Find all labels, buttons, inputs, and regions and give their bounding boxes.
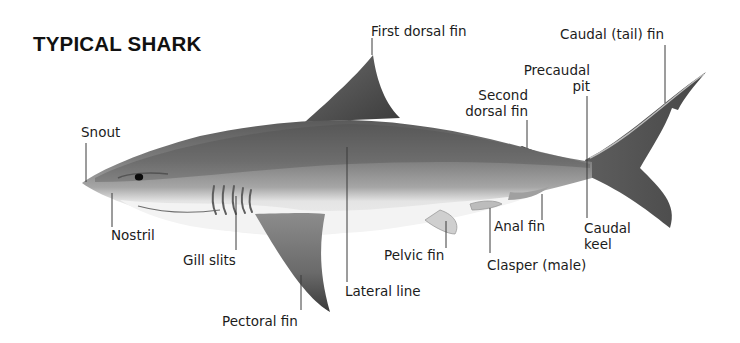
- pectoral-fin-shape: [255, 213, 330, 312]
- label-pelvic-fin: Pelvic fin: [384, 247, 444, 263]
- label-gill-slits: Gill slits: [183, 252, 236, 268]
- label-snout: Snout: [81, 124, 120, 140]
- caudal-fin-shape: [585, 72, 706, 228]
- label-anal-fin: Anal fin: [494, 218, 545, 234]
- label-precaudal-pit: Precaudal pit: [518, 62, 590, 94]
- first-dorsal-fin-shape: [305, 55, 400, 122]
- label-clasper: Clasper (male): [487, 257, 586, 273]
- shark-anatomy-diagram: TYPICAL SHARK First dorsal fin Caudal (t…: [0, 0, 740, 343]
- label-nostril: Nostril: [111, 227, 155, 243]
- label-second-dorsal-fin: Second dorsal fin: [458, 87, 528, 119]
- eye-shape: [135, 173, 143, 180]
- diagram-title: TYPICAL SHARK: [33, 32, 202, 56]
- label-lateral-line: Lateral line: [345, 283, 421, 299]
- label-caudal-tail-fin: Caudal (tail) fin: [560, 26, 664, 42]
- label-caudal-keel: Caudal keel: [584, 220, 631, 252]
- label-pectoral-fin: Pectoral fin: [222, 313, 298, 329]
- label-first-dorsal-fin: First dorsal fin: [371, 23, 467, 39]
